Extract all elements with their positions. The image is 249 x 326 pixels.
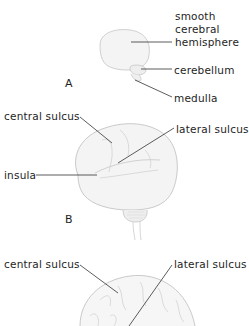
label-hemisphere: hemisphere (175, 36, 239, 48)
label-central-sulcus-c: central sulcus (4, 258, 80, 270)
label-lateral-sulcus-b: lateral sulcus (176, 123, 249, 135)
brain-b-illustration (76, 124, 178, 240)
brain-a-illustration (100, 30, 149, 81)
brain-c-illustration (80, 275, 195, 326)
label-cerebellum: cerebellum (174, 64, 235, 76)
panel-label-a: A (65, 77, 73, 90)
label-medulla: medulla (174, 92, 218, 104)
label-central-sulcus-b: central sulcus (4, 110, 80, 122)
medulla-leader (135, 80, 172, 97)
label-smooth: smooth (175, 10, 216, 22)
label-insula: insula (4, 169, 36, 181)
label-cerebral: cerebral (175, 23, 220, 35)
label-lateral-sulcus-c: lateral sulcus (174, 258, 247, 270)
brain-diagram (0, 0, 249, 326)
panel-label-b: B (65, 213, 73, 226)
